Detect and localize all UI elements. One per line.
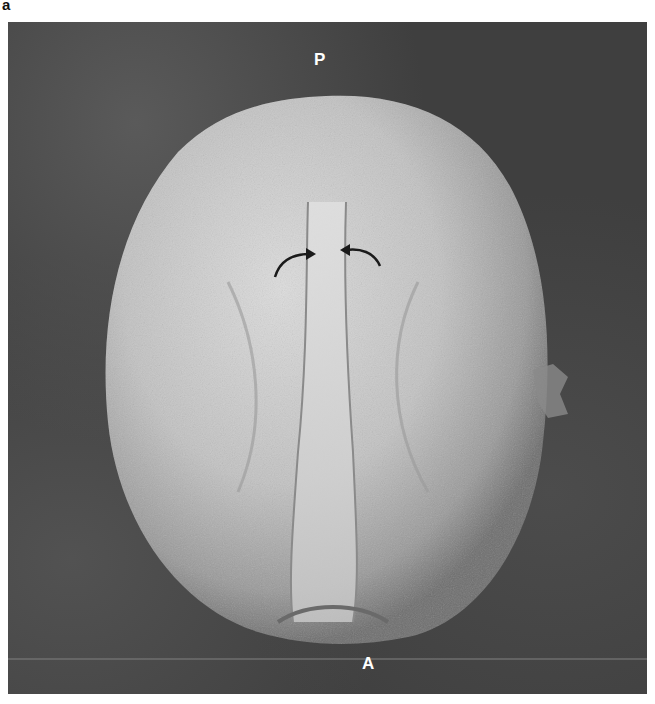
panel-label: a [2, 0, 10, 13]
scan-line [8, 658, 647, 660]
micrograph-frame: P A [8, 22, 647, 694]
specimen-illustration [8, 22, 647, 694]
pole-label-bottom: A [362, 654, 374, 674]
pole-label-top: P [314, 50, 325, 70]
